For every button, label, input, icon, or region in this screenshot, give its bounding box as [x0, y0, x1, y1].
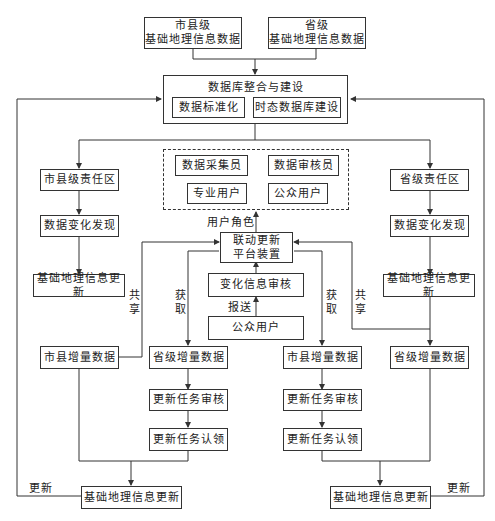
mid-left-provincial-incremental-box: 省级增量数据	[149, 346, 228, 369]
mid-left-task-audit-box: 更新任务审核	[149, 389, 228, 411]
bottom-right-geo-update-box: 基础地理信息更新	[330, 486, 431, 509]
mid-right-fetch-label: 获取	[325, 289, 337, 317]
right-share-label: 共享	[354, 289, 366, 317]
city-county-geodata-box: 市县级 基础地理信息数据	[144, 17, 242, 49]
provincial-zone-box: 省级责任区	[390, 169, 469, 191]
mid-left-task-claim-box: 更新任务认领	[149, 428, 228, 451]
mid-right-task-audit-box: 更新任务审核	[283, 389, 362, 411]
city-county-zone-box: 市县级责任区	[40, 169, 119, 191]
right-change-detect-box: 数据变化发现	[390, 215, 469, 237]
left-share-label: 共享	[128, 289, 140, 317]
left-city-incremental-box: 市县增量数据	[40, 346, 119, 369]
right-geo-update-box: 基础地理信息更新	[383, 274, 475, 297]
bottom-right-update-label: 更新	[447, 482, 471, 495]
data-standardization-box: 数据标准化	[172, 97, 245, 118]
public-user-box: 公众用户	[208, 316, 304, 340]
mid-right-task-claim-box: 更新任务认领	[283, 428, 362, 451]
temporal-database-box: 时态数据库建设	[253, 97, 341, 118]
role-data-auditor: 数据审核员	[268, 155, 339, 176]
role-professional-user: 专业用户	[187, 183, 247, 204]
mid-right-city-incremental-box: 市县增量数据	[283, 346, 362, 369]
bottom-left-update-label: 更新	[29, 482, 53, 495]
left-change-detect-box: 数据变化发现	[40, 215, 119, 237]
role-public-user: 公众用户	[268, 183, 328, 204]
right-provincial-incremental-box: 省级增量数据	[390, 346, 469, 369]
bottom-left-geo-update-box: 基础地理信息更新	[81, 486, 182, 509]
role-data-collector: 数据采集员	[175, 155, 248, 176]
provincial-geodata-box: 省级 基础地理信息数据	[268, 17, 366, 49]
left-geo-update-box: 基础地理信息更新	[33, 274, 125, 297]
change-info-audit-box: 变化信息审核	[208, 273, 304, 297]
report-label: 报送	[228, 301, 252, 314]
user-role-label: 用户角色	[207, 216, 255, 229]
database-integration-title: 数据库整合与建设	[164, 81, 347, 95]
mid-left-fetch-label: 获取	[174, 289, 186, 317]
linked-update-platform-box: 联动更新 平台装置	[220, 232, 293, 263]
